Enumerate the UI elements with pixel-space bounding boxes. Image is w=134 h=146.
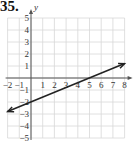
- x-tick-label: 6: [99, 80, 104, 90]
- x-tick-label: 1: [40, 80, 45, 90]
- x-tick-label: −2: [3, 80, 13, 90]
- y-tick-label: 1: [25, 61, 30, 71]
- x-tick-label: 2: [52, 80, 57, 90]
- y-tick-label: −3: [19, 109, 29, 119]
- y-tick-label: 2: [25, 49, 30, 59]
- coordinate-plane: y−2−11234567854321−1−2−3−4−5: [0, 0, 134, 146]
- y-tick-label: −1: [19, 85, 29, 95]
- y-tick-label: −4: [19, 121, 29, 131]
- y-tick-label: −5: [19, 133, 29, 143]
- y-tick-label: 5: [25, 13, 30, 23]
- x-axis-arrow-icon: [128, 76, 133, 80]
- y-axis-label: y: [33, 2, 38, 12]
- y-tick-label: 3: [25, 37, 30, 47]
- x-tick-label: 5: [87, 80, 92, 90]
- y-tick-label: 4: [25, 25, 30, 35]
- x-tick-label: 7: [111, 80, 116, 90]
- x-tick-label: 8: [122, 80, 127, 90]
- y-axis-arrow-icon: [29, 9, 33, 14]
